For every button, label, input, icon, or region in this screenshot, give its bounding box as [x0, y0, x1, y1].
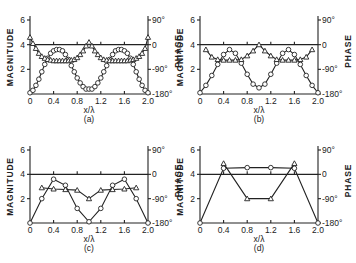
x-tick-label: 1.2	[95, 225, 107, 235]
y2-tick-label: 0	[152, 169, 157, 179]
x-tick-label: 1.2	[95, 96, 107, 106]
circle-marker	[51, 177, 56, 182]
x-tick-label: 0	[198, 225, 203, 235]
circle-marker	[215, 62, 220, 67]
y2-tick-label: -90°	[322, 64, 338, 74]
circle-marker	[304, 73, 309, 78]
circle-marker	[40, 196, 45, 201]
y-tick-label: 6	[190, 145, 195, 155]
y-tick-label: 4	[190, 40, 195, 50]
circle-marker	[140, 83, 145, 88]
circle-marker	[146, 90, 151, 95]
x-tick-label: 0	[198, 96, 203, 106]
circle-marker	[134, 70, 139, 75]
circle-marker	[251, 82, 256, 87]
y2-tick-label: 90°	[152, 15, 165, 25]
y2-tick-label: -180°	[322, 89, 342, 99]
x-tick-label: 0.8	[71, 96, 83, 106]
y2-tick-label: 90°	[322, 15, 335, 25]
phase-line	[224, 163, 295, 198]
circle-marker	[63, 52, 68, 57]
panel-b: 00.40.81.21.62.024690°0-90°-180°MAGNITUD…	[175, 15, 353, 124]
x-tick-label: 0.4	[48, 96, 60, 106]
panel-d: 00.40.81.21.62.024690°0-90°-180°MAGNITUD…	[175, 145, 353, 253]
circle-marker	[42, 62, 47, 67]
circle-marker	[245, 165, 250, 170]
y2-tick-label: -180°	[152, 218, 172, 228]
triangle-marker	[292, 161, 297, 166]
x-tick-label: 0.4	[48, 225, 60, 235]
triangle-marker	[30, 41, 35, 46]
x-tick-label: 0.8	[241, 225, 253, 235]
circle-marker	[87, 219, 92, 224]
figure: 00.40.81.21.62.024690°0-90°-180°MAGNITUD…	[0, 0, 356, 263]
triangle-marker	[86, 40, 91, 45]
circle-marker	[227, 47, 232, 52]
circle-marker	[75, 76, 80, 81]
circle-marker	[122, 177, 127, 182]
circle-marker	[146, 221, 151, 226]
y-axis-label: MAGNITUDE	[175, 157, 185, 216]
x-tick-label: 0.8	[241, 96, 253, 106]
circle-marker	[310, 83, 315, 88]
y2-tick-label: 0	[322, 169, 327, 179]
x-tick-label: 0.8	[71, 225, 83, 235]
y-tick-label: 2	[20, 64, 25, 74]
y-tick-label: 4	[190, 169, 195, 179]
y2-tick-label: 0	[152, 40, 157, 50]
panel-label: (a)	[84, 114, 95, 124]
circle-marker	[28, 221, 33, 226]
circle-marker	[104, 63, 109, 68]
circle-marker	[40, 70, 45, 75]
circle-marker	[96, 81, 101, 86]
y2-axis-label: PHASE	[343, 164, 353, 197]
circle-marker	[221, 52, 226, 57]
y-tick-label: 2	[190, 64, 195, 74]
y2-tick-label: 90°	[322, 145, 335, 155]
x-tick-label: 1.6	[118, 96, 130, 106]
y2-axis-label: PHASE	[343, 34, 353, 67]
panel-label: (b)	[254, 114, 265, 124]
y2-tick-label: -180°	[322, 218, 342, 228]
x-tick-label: 1.2	[265, 96, 277, 106]
panel-c: 00.40.81.21.62.024690°0-90°-180°MAGNITUD…	[5, 145, 183, 253]
circle-marker	[125, 51, 130, 56]
y-tick-label: 2	[20, 194, 25, 204]
magnitude-line	[200, 168, 318, 223]
circle-marker	[263, 82, 268, 87]
circle-marker	[286, 47, 291, 52]
triangle-marker	[36, 51, 41, 56]
x-tick-label: 0.4	[218, 96, 230, 106]
y-axis-label: MAGNITUDE	[5, 28, 15, 87]
circle-marker	[233, 51, 238, 56]
circle-marker	[280, 51, 285, 56]
y-tick-label: 6	[20, 15, 25, 25]
circle-marker	[101, 70, 106, 75]
triangle-marker	[203, 47, 208, 52]
x-tick-label: 1.6	[118, 225, 130, 235]
circle-marker	[269, 165, 274, 170]
circle-marker	[75, 206, 80, 211]
y-axis-label: MAGNITUDE	[5, 157, 15, 216]
circle-marker	[134, 196, 139, 201]
circle-marker	[198, 221, 203, 226]
triangle-marker	[145, 35, 150, 40]
triangle-marker	[27, 35, 32, 40]
circle-marker	[72, 70, 77, 75]
circle-marker	[257, 86, 262, 91]
circle-marker	[298, 62, 303, 67]
circle-marker	[316, 90, 321, 95]
panel-label: (c)	[84, 243, 94, 253]
x-tick-label: 1.6	[288, 96, 300, 106]
x-tick-label: 0	[28, 96, 33, 106]
y2-tick-label: 90°	[152, 145, 165, 155]
triangle-marker	[142, 46, 147, 51]
y-axis-label: MAGNITUDE	[175, 28, 185, 87]
x-tick-label: 1.2	[265, 225, 277, 235]
y-tick-label: 4	[20, 169, 25, 179]
y-tick-label: 6	[20, 145, 25, 155]
circle-marker	[137, 77, 142, 82]
y-tick-label: 6	[190, 15, 195, 25]
circle-marker	[316, 221, 321, 226]
y-tick-label: 4	[20, 40, 25, 50]
